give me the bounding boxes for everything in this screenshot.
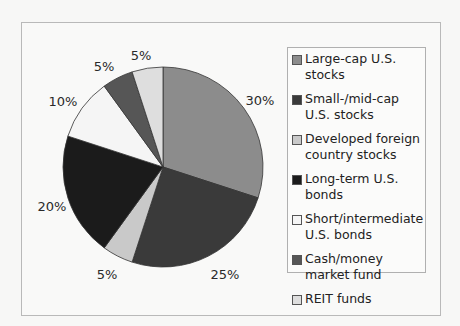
legend-label: Cash/money market fund — [305, 251, 421, 283]
percent-label: 10% — [49, 94, 78, 109]
percent-label: 20% — [38, 199, 67, 214]
legend-label: Long-term U.S. bonds — [305, 171, 421, 203]
legend-swatch — [292, 295, 302, 305]
percent-label: 5% — [94, 59, 115, 74]
legend-item-reit: REIT funds — [292, 291, 421, 307]
legend-item-long-term-bonds: Long-term U.S. bonds — [292, 171, 421, 203]
legend-label: Small-/mid-cap U.S. stocks — [305, 91, 421, 123]
percent-label: 5% — [97, 267, 118, 282]
legend-label: Short/intermediate U.S. bonds — [305, 211, 423, 243]
legend-label: Large-cap U.S. stocks — [305, 51, 421, 83]
legend-swatch — [292, 55, 302, 65]
legend: Large-cap U.S. stocks Small-/mid-cap U.S… — [287, 47, 426, 273]
legend-swatch — [292, 215, 302, 225]
legend-label: Developed foreign country stocks — [305, 131, 421, 163]
legend-item-large-cap: Large-cap U.S. stocks — [292, 51, 421, 83]
percent-label: 30% — [246, 93, 275, 108]
legend-item-cash: Cash/money market fund — [292, 251, 421, 283]
percent-label: 25% — [211, 267, 240, 282]
legend-swatch — [292, 95, 302, 105]
legend-swatch — [292, 175, 302, 185]
legend-swatch — [292, 135, 302, 145]
legend-swatch — [292, 255, 302, 265]
percent-label: 5% — [131, 48, 152, 63]
legend-label: REIT funds — [305, 291, 372, 307]
legend-item-short-intermediate-bonds: Short/intermediate U.S. bonds — [292, 211, 421, 243]
legend-item-small-mid-cap: Small-/mid-cap U.S. stocks — [292, 91, 421, 123]
legend-item-developed-foreign: Developed foreign country stocks — [292, 131, 421, 163]
